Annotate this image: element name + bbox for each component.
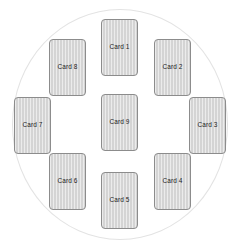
card-2-label: Card 2: [162, 64, 182, 71]
card-7[interactable]: Card 7: [14, 97, 51, 154]
card-2[interactable]: Card 2: [154, 39, 191, 96]
card-circle-canvas: Card 1 Card 2 Card 3 Card 4 Card 5 Card …: [0, 0, 240, 250]
card-5[interactable]: Card 5: [101, 172, 138, 229]
card-3-label: Card 3: [197, 122, 217, 129]
card-4[interactable]: Card 4: [154, 153, 191, 210]
card-1-label: Card 1: [109, 44, 129, 51]
card-4-label: Card 4: [162, 178, 182, 185]
card-7-label: Card 7: [22, 122, 42, 129]
card-6-label: Card 6: [57, 178, 77, 185]
card-5-label: Card 5: [109, 197, 129, 204]
card-8[interactable]: Card 8: [49, 39, 86, 96]
card-9[interactable]: Card 9: [101, 94, 138, 151]
card-3[interactable]: Card 3: [189, 97, 226, 154]
card-9-label: Card 9: [109, 119, 129, 126]
card-1[interactable]: Card 1: [101, 19, 138, 76]
card-6[interactable]: Card 6: [49, 153, 86, 210]
card-8-label: Card 8: [57, 64, 77, 71]
